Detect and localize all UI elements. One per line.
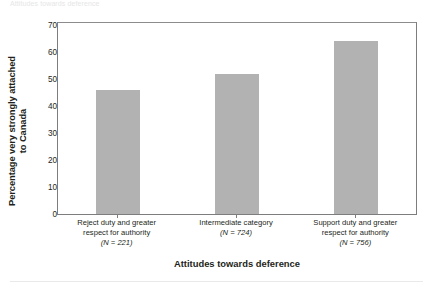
x-axis-title: Attitudes towards deference xyxy=(57,258,417,269)
y-axis-title-line1: Percentage very strongly attached xyxy=(6,25,17,237)
bar-1 xyxy=(96,90,140,214)
y-tick-label-40: 40 xyxy=(35,102,57,111)
x-category-line: Support duty and greater xyxy=(298,218,413,228)
x-axis-category-labels: Reject duty and greaterrespect for autho… xyxy=(57,218,417,258)
x-category-line: respect for authority xyxy=(59,228,174,238)
plot-area xyxy=(57,22,417,215)
y-tick-label-70: 70 xyxy=(35,21,57,30)
x-category-label-2: Intermediate category(N = 724) xyxy=(178,218,293,238)
y-tick-label-20: 20 xyxy=(35,156,57,165)
y-tick-label-30: 30 xyxy=(35,129,57,138)
bar-3 xyxy=(334,41,378,214)
x-category-line: Reject duty and greater xyxy=(59,218,174,228)
y-tick-label-50: 50 xyxy=(35,75,57,84)
y-axis-tick-labels: 010203040506070 xyxy=(30,22,57,216)
x-category-line: respect for authority xyxy=(298,228,413,238)
x-category-label-1: Reject duty and greaterrespect for autho… xyxy=(59,218,174,249)
x-category-n-label-2: (N = 724) xyxy=(178,228,293,238)
y-tick-label-0: 0 xyxy=(35,210,57,219)
y-axis-title: Percentage very strongly attached to Can… xyxy=(4,14,30,226)
y-tick-label-10: 10 xyxy=(35,183,57,192)
x-category-label-3: Support duty and greaterrespect for auth… xyxy=(298,218,413,249)
figure-bar-chart: Percentage very strongly attached to Can… xyxy=(0,6,433,280)
x-category-n-label-1: (N = 221) xyxy=(59,238,174,248)
y-tick-label-60: 60 xyxy=(35,48,57,57)
y-axis-title-line2: to Canada xyxy=(17,25,28,237)
x-category-n-label-3: (N = 756) xyxy=(298,238,413,248)
bottom-divider xyxy=(10,281,423,282)
bar-2 xyxy=(215,74,259,214)
x-category-line: Intermediate category xyxy=(178,218,293,228)
